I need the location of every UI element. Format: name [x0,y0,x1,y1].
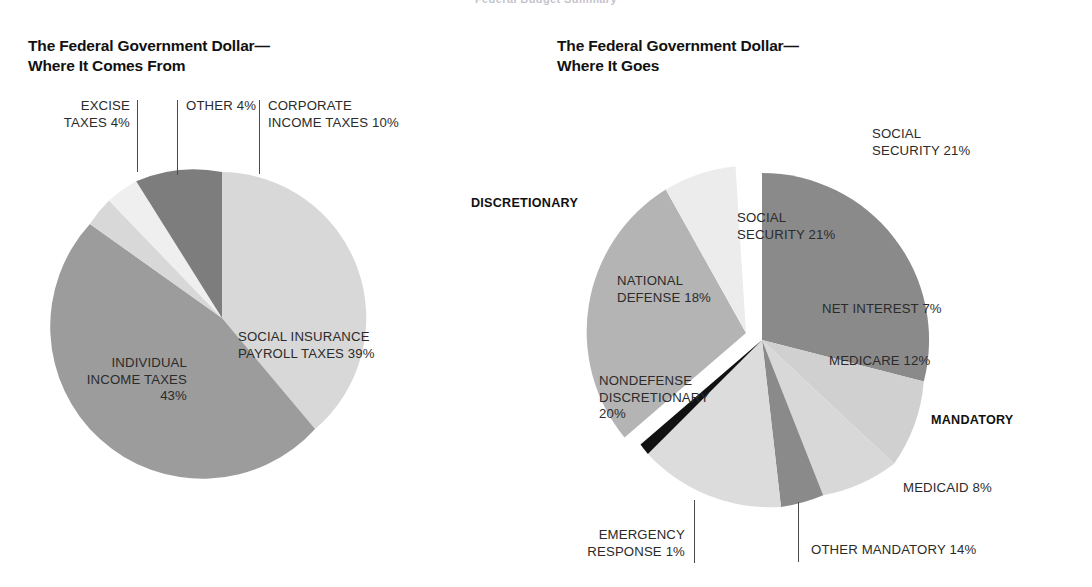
label-social-insurance-payroll-taxes: SOCIAL INSURANCE PAYROLL TAXES 39% [238,329,418,362]
label-social-security-inside: SOCIAL SECURITY 21% [737,210,877,243]
label-emergency-response: EMERGENCY RESPONSE 1% [545,527,685,560]
label-social-security-outside: SOCIAL SECURITY 21% [872,126,1012,159]
group-label-discretionary: DISCRETIONARY [471,196,578,210]
leader-line-excise-taxes [137,100,138,172]
leader-line-emergency-response [694,500,695,563]
label-net-interest: NET INTEREST 7% [822,301,982,318]
pie-chart-where-it-comes-from [0,0,470,500]
group-label-mandatory: MANDATORY [931,413,1013,427]
leader-line-other [177,100,178,175]
label-other-mandatory: OTHER MANDATORY 14% [811,542,1021,559]
label-national-defense: NATIONAL DEFENSE 18% [617,273,767,306]
label-other: OTHER 4% [186,98,266,115]
chart-page: Federal Budget Summary The Federal Gover… [0,0,1092,587]
leader-line-other-mandatory [798,502,799,562]
label-nondefense-discretionary: NONDEFENSE DISCRETIONARY 20% [599,373,749,423]
label-individual-income-taxes: INDIVIDUAL INCOME TAXES 43% [42,355,187,405]
label-medicaid: MEDICAID 8% [903,480,1043,497]
label-corporate-income-taxes: CORPORATE INCOME TAXES 10% [268,98,448,131]
pie-left-svg [0,0,470,500]
label-excise-taxes: EXCISE TAXES 4% [38,98,130,131]
label-medicare: MEDICARE 12% [829,353,979,370]
